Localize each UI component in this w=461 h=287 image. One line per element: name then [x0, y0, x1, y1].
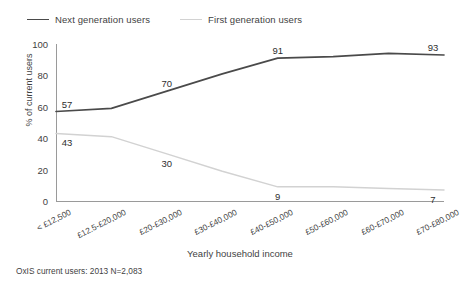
x-axis-tick-label: £70-£80,000: [367, 207, 461, 261]
x-axis-tick-label: £12.5-£20,000: [34, 207, 128, 261]
chart-footnote: OxIS current users: 2013 N=2,083: [16, 266, 142, 276]
x-axis-title: Yearly household income: [140, 248, 340, 259]
